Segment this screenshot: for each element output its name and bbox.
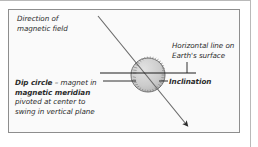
field-direction-line-1: Direction of	[17, 14, 58, 23]
dip-circle-line-3: pivoted at center to	[15, 97, 85, 106]
magnetic-meridian-term: magnetic meridian	[15, 88, 90, 97]
label-magnetic-field-direction: Direction of magnetic field	[17, 14, 68, 33]
dip-circle-term: Dip circle	[15, 78, 52, 87]
label-dip-circle: Dip circle – magnet in magnetic meridian…	[15, 78, 97, 116]
horizontal-line-2: Earth's surface	[172, 51, 225, 60]
field-direction-line-2: magnetic field	[17, 24, 68, 33]
label-inclination: Inclination	[169, 77, 211, 87]
horizontal-line-1: Horizontal line on	[172, 41, 234, 50]
dial-group	[131, 56, 165, 92]
label-horizontal-line: Horizontal line on Earth's surface	[172, 41, 234, 60]
dip-circle-figure: Direction of magnetic field Horizontal l…	[0, 0, 258, 147]
magnetic-field-arrow	[98, 16, 186, 124]
dip-circle-phrase-1: – magnet in	[52, 78, 96, 87]
dip-circle-line-4: swing in vertical plane	[15, 107, 95, 116]
